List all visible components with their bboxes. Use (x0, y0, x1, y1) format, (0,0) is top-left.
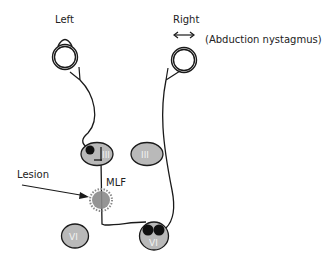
mlf-label: MLF (106, 177, 126, 188)
left-vi-nucleus: VI (62, 224, 89, 248)
left-eye-icon (53, 40, 81, 81)
double-arrow-icon (174, 32, 194, 38)
lesion-label: Lesion (17, 169, 49, 180)
svg-text:VI: VI (149, 238, 158, 248)
mlf-lesion-diagram: Left Right (Abduction nystagmus) Lesion … (0, 0, 328, 264)
oculomotor-nerve-path (80, 80, 95, 148)
lesion-arrow-icon (22, 185, 89, 199)
abduction-nystagmus-label: (Abduction nystagmus) (205, 34, 322, 45)
svg-text:III: III (102, 150, 110, 160)
right-eye-icon (166, 48, 197, 81)
right-iii-nucleus: III (131, 143, 163, 166)
right-vi-nucleus: VI (140, 222, 169, 250)
abducens-nerve-path (163, 80, 174, 228)
lesion-icon (90, 189, 112, 211)
left-eye-label: Left (55, 14, 74, 25)
svg-text:VI: VI (69, 232, 78, 242)
svg-text:III: III (141, 150, 149, 160)
left-iii-nucleus: III (81, 143, 113, 166)
right-eye-label: Right (173, 14, 199, 25)
